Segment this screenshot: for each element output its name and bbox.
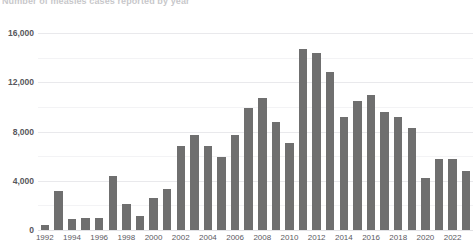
bar-2016[interactable]	[367, 95, 375, 230]
bar-2018[interactable]	[394, 117, 402, 230]
bar-2008[interactable]	[258, 98, 266, 230]
y-axis-tick-label: 0	[0, 225, 34, 235]
x-axis: 1992199419961998200020022004200620082010…	[38, 232, 473, 248]
x-axis-tick-label: 2014	[335, 233, 353, 242]
bar-2014[interactable]	[340, 117, 348, 230]
bar-series	[38, 33, 473, 230]
x-axis-tick-label: 2012	[308, 233, 326, 242]
x-axis-tick-label: 1994	[63, 233, 81, 242]
bar-2011[interactable]	[299, 49, 307, 230]
page-title: Number of measles cases reported by year	[2, 0, 190, 6]
bar-2004[interactable]	[204, 146, 212, 230]
bar-2006[interactable]	[231, 135, 239, 230]
bar-2021[interactable]	[435, 159, 443, 230]
bar-2010[interactable]	[285, 143, 293, 230]
y-axis-tick-label: 8,000	[0, 127, 34, 137]
bar-2000[interactable]	[149, 198, 157, 230]
x-axis-tick-label: 1996	[90, 233, 108, 242]
bar-2017[interactable]	[380, 112, 388, 230]
y-axis: 04,0008,00012,00016,000	[0, 33, 34, 230]
x-axis-tick-label: 2018	[389, 233, 407, 242]
bar-2012[interactable]	[312, 53, 320, 230]
y-axis-tick-label: 16,000	[0, 28, 34, 38]
x-axis-tick-label: 2022	[444, 233, 462, 242]
y-axis-tick-label: 4,000	[0, 176, 34, 186]
bar-2007[interactable]	[244, 108, 252, 230]
bar-2003[interactable]	[190, 135, 198, 230]
x-axis-tick-label: 1992	[36, 233, 54, 242]
x-axis-tick-label: 2004	[199, 233, 217, 242]
x-axis-tick-label: 2000	[145, 233, 163, 242]
x-axis-tick-label: 1998	[117, 233, 135, 242]
chart-container: Number of measles cases reported by year…	[0, 0, 476, 251]
bar-1994[interactable]	[68, 219, 76, 230]
bar-2015[interactable]	[353, 101, 361, 230]
bar-2019[interactable]	[408, 128, 416, 230]
chart-title-strip: Number of measles cases reported by year	[0, 0, 476, 9]
bar-2009[interactable]	[272, 122, 280, 230]
bar-1998[interactable]	[122, 204, 130, 230]
bar-2022[interactable]	[448, 159, 456, 230]
y-axis-tick-label: 12,000	[0, 77, 34, 87]
bar-1992[interactable]	[41, 225, 49, 230]
bar-1996[interactable]	[95, 218, 103, 230]
x-axis-tick-label: 2010	[281, 233, 299, 242]
bar-2013[interactable]	[326, 72, 334, 230]
x-axis-tick-label: 2006	[226, 233, 244, 242]
bar-2020[interactable]	[421, 178, 429, 230]
bar-2005[interactable]	[217, 157, 225, 230]
bar-1997[interactable]	[109, 176, 117, 230]
x-axis-tick-label: 2008	[253, 233, 271, 242]
bar-2002[interactable]	[177, 146, 185, 230]
x-axis-tick-label: 2020	[417, 233, 435, 242]
x-axis-tick-label: 2002	[172, 233, 190, 242]
bar-1993[interactable]	[54, 191, 62, 230]
bar-2001[interactable]	[163, 189, 171, 230]
bar-1999[interactable]	[136, 216, 144, 230]
gridline-major	[38, 230, 473, 231]
bar-2023[interactable]	[462, 171, 470, 230]
x-axis-tick-label: 2016	[362, 233, 380, 242]
bar-1995[interactable]	[81, 218, 89, 230]
